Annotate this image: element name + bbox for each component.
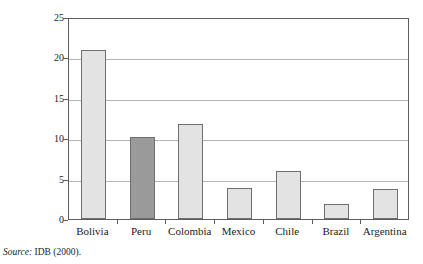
y-tick-label: 0	[38, 215, 64, 225]
bar-series	[69, 19, 408, 219]
y-tick-label: 5	[38, 175, 64, 185]
x-tick-label-chile: Chile	[263, 224, 312, 238]
x-tick-label-argentina: Argentina	[360, 224, 409, 238]
x-tick-label-colombia: Colombia	[165, 224, 214, 238]
y-tick-label: 20	[38, 53, 64, 63]
y-tick-label: 10	[38, 134, 64, 144]
x-tick-mark	[360, 220, 361, 224]
bar-chile	[276, 171, 301, 219]
x-tick-mark	[165, 220, 166, 224]
x-tick-label-bolivia: Bolivia	[68, 224, 117, 238]
x-tick-label-mexico: Mexico	[214, 224, 263, 238]
y-tick-label: 15	[38, 94, 64, 104]
plot-area	[68, 18, 409, 220]
x-tick-label-peru: Peru	[117, 224, 166, 238]
bar-chart-figure: Percent of GDP 0510152025 BoliviaPeruCol…	[0, 0, 423, 264]
x-tick-mark	[263, 220, 264, 224]
source-label: Source:	[3, 247, 32, 257]
source-note: Source: IDB (2000).	[3, 246, 81, 258]
x-tick-mark	[117, 220, 118, 224]
x-tick-mark	[214, 220, 215, 224]
bar-mexico	[227, 188, 252, 220]
bar-peru	[130, 137, 155, 219]
source-text: IDB (2000).	[35, 247, 81, 257]
y-tick-mark	[63, 220, 68, 221]
bar-colombia	[178, 124, 203, 219]
bar-argentina	[373, 189, 398, 219]
x-tick-mark	[312, 220, 313, 224]
x-tick-label-brazil: Brazil	[312, 224, 361, 238]
bar-bolivia	[81, 50, 106, 219]
y-tick-label: 25	[38, 13, 64, 23]
bar-brazil	[324, 204, 349, 219]
x-axis-tick-labels: BoliviaPeruColombiaMexicoChileBrazilArge…	[68, 224, 409, 242]
